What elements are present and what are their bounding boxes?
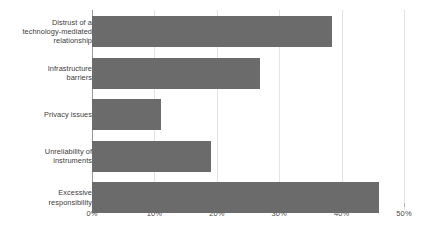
bar bbox=[92, 99, 161, 130]
plot-area: 0%10%20%30%40%50% bbox=[92, 10, 404, 203]
category-label-line: Infrastructure bbox=[8, 64, 92, 73]
bar bbox=[92, 16, 332, 47]
category-label-line: responsibility bbox=[8, 198, 92, 207]
category-label: Excessiveresponsibility bbox=[8, 188, 92, 206]
bar-row bbox=[92, 58, 404, 89]
gridline-50% bbox=[404, 10, 405, 210]
category-label-line: technology-mediated bbox=[8, 27, 92, 36]
category-label-line: relationship bbox=[8, 36, 92, 45]
category-label-line: instruments bbox=[8, 156, 92, 165]
category-label-line: Privacy issues bbox=[8, 110, 92, 119]
category-label: Privacy issues bbox=[8, 110, 92, 119]
category-label-line: Distrust of a bbox=[8, 18, 92, 27]
category-label-line: barriers bbox=[8, 73, 92, 82]
category-label: Distrust of atechnology-mediatedrelation… bbox=[8, 18, 92, 46]
x-tick-mark bbox=[404, 203, 405, 207]
category-label-line: Unreliability of bbox=[8, 147, 92, 156]
bar bbox=[92, 141, 211, 172]
bar bbox=[92, 58, 260, 89]
bar bbox=[92, 182, 379, 213]
bar-row bbox=[92, 182, 404, 213]
bar-row bbox=[92, 99, 404, 130]
bar-chart: 0%10%20%30%40%50% Distrust of atechnolog… bbox=[0, 0, 425, 237]
category-label: Unreliability ofinstruments bbox=[8, 147, 92, 165]
category-label-line: Excessive bbox=[8, 188, 92, 197]
bar-row bbox=[92, 16, 404, 47]
category-label: Infrastructurebarriers bbox=[8, 64, 92, 82]
bar-row bbox=[92, 141, 404, 172]
